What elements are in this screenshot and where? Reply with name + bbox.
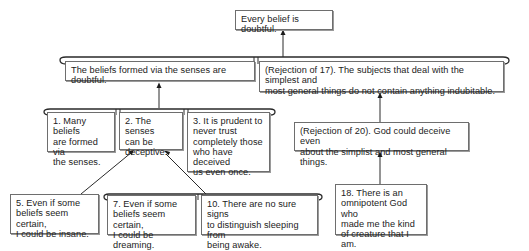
arrowhead-icon [157, 83, 162, 89]
node-rejection-17: (Rejection of 17). The subjects that dea… [259, 61, 504, 92]
node-senses-doubtful: The beliefs formed via the senses are do… [65, 61, 255, 81]
node-premise-5: 5. Even if some beliefs seem certain, I … [10, 194, 99, 234]
node-premise-18: 18. There is an omnipotent God who made … [335, 184, 427, 235]
arrowhead-icon [281, 30, 286, 36]
node-premise-7: 7. Even if some beliefs seem certain, I … [107, 195, 196, 235]
node-premise-3: 3. It is prudent to never trust complete… [187, 112, 270, 172]
node-premise-1: 1. Many beliefs are formed via the sense… [47, 112, 115, 152]
node-premise-2: 2. The senses can be deceptive. [119, 112, 183, 150]
node-rejection-20: (Rejection of 20). God could deceive eve… [294, 122, 469, 151]
node-premise-10: 10. There are no sure signs to distingui… [201, 195, 318, 235]
node-conclusion: Every belief is doubtful. [235, 10, 333, 30]
